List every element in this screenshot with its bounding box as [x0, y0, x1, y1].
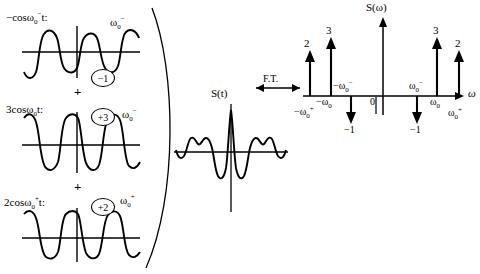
comp3-coefficient-badge: +2 — [91, 198, 115, 216]
comp2-frequency-label: ω0− — [122, 108, 137, 123]
comp2-coefficient-badge: +3 — [91, 108, 115, 126]
impulse-head-omega0-minus — [412, 112, 422, 124]
ft-arrow-head-right — [292, 84, 300, 92]
amplitude-label-omega0: 3 — [433, 25, 439, 36]
figure-vector-layer — [0, 0, 480, 274]
comp1-frequency-label: ω0− — [110, 16, 125, 31]
plus-sign-2: + — [74, 180, 81, 193]
figure-canvas: −cosω0−t: ω0− −1 + 3cosω0t: ω0− +3 + 2co… — [0, 0, 480, 274]
tick-label-neg-omega0-plus: −ω0+ — [294, 106, 314, 120]
comp3-waveform — [24, 211, 140, 259]
impulse-head-omega0-plus — [454, 50, 464, 62]
amplitude-label-omega0-plus: 2 — [455, 38, 461, 49]
grouping-brace — [146, 8, 170, 268]
impulse-head-neg-omega0-minus — [346, 112, 356, 124]
tick-label-omega0: ω0 — [430, 96, 440, 110]
time-domain-title: S(t) — [211, 88, 228, 99]
omega-axis-label: ω — [468, 88, 476, 99]
comp3-frequency-label: ω0+ — [120, 194, 135, 209]
tick-label-omega0-minus: ω0− — [409, 80, 423, 94]
frequency-domain-title: S(ω) — [366, 2, 387, 13]
comp1-coefficient-badge: −1 — [91, 69, 115, 87]
tick-label-omega0-plus: ω0+ — [448, 107, 462, 121]
tick-label-neg-omega0: −ω0 — [316, 96, 332, 110]
amplitude-label-neg-omega0-minus: −1 — [344, 125, 355, 135]
comp3-signal-label: 2cosω0+t: — [4, 196, 45, 211]
amplitude-label-neg-omega0-plus: 2 — [304, 38, 310, 49]
comp1-waveform — [24, 30, 139, 78]
comp1-signal-label: −cosω0−t: — [6, 11, 48, 26]
impulse-head-neg-omega0-plus — [305, 50, 315, 62]
comp2-signal-label: 3cosω0t: — [6, 103, 43, 118]
ft-arrow-head-left — [256, 84, 264, 92]
tick-label-neg-omega0-minus: −ω0− — [333, 80, 353, 94]
fourier-transform-label: F.T. — [263, 74, 278, 84]
origin-label: 0 — [370, 97, 375, 107]
impulse-head-omega0 — [432, 37, 442, 49]
impulse-head-neg-omega0 — [326, 37, 336, 49]
amplitude-label-omega0-minus: −1 — [410, 125, 421, 135]
amplitude-label-neg-omega0: 3 — [326, 25, 332, 36]
plus-sign-1: + — [74, 85, 81, 98]
spectrum-vertical-arrowhead — [379, 17, 387, 27]
